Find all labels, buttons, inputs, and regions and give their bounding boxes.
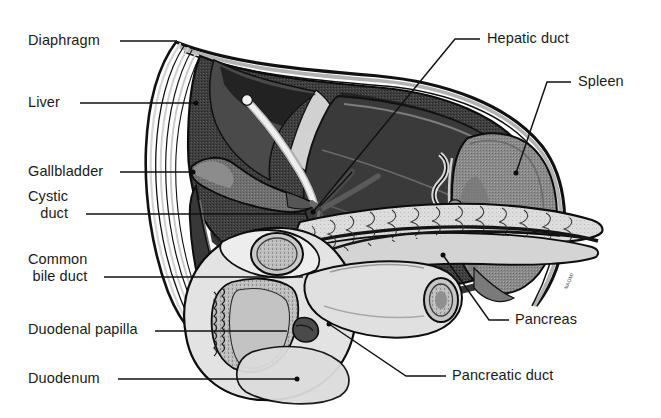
label-pancreatic-duct: Pancreatic duct xyxy=(452,367,553,384)
anatomy-figure: Diaphragm Liver Gallbladder Cystic duct … xyxy=(0,0,661,418)
label-common-bile-duct-line1: Common xyxy=(28,251,87,268)
dot-pancreatic-duct xyxy=(327,322,332,327)
label-pancreas: Pancreas xyxy=(515,311,577,328)
dot-pancreas xyxy=(441,253,446,258)
label-gallbladder: Gallbladder xyxy=(28,163,103,180)
dot-duodenum xyxy=(295,377,300,382)
dot-hepatic-duct xyxy=(311,210,316,215)
label-common-bile-duct-line2: bile duct xyxy=(28,268,87,285)
dot-spleen xyxy=(514,171,519,176)
duodenal-papilla-organ xyxy=(293,317,318,342)
label-spleen: Spleen xyxy=(578,73,624,90)
label-cystic-duct-line2: duct xyxy=(28,205,68,222)
label-duodenum: Duodenum xyxy=(28,370,100,387)
label-cystic-duct: Cystic duct xyxy=(28,188,68,222)
dot-gallbladder xyxy=(191,170,196,175)
dot-liver xyxy=(194,101,199,106)
label-common-bile-duct: Common bile duct xyxy=(28,251,87,285)
anatomy-illustration xyxy=(0,0,661,418)
label-duodenal-papilla: Duodenal papilla xyxy=(28,321,138,338)
label-cystic-duct-line1: Cystic xyxy=(28,188,68,205)
label-diaphragm: Diaphragm xyxy=(28,32,100,49)
label-hepatic-duct: Hepatic duct xyxy=(487,30,569,47)
label-liver: Liver xyxy=(28,94,60,111)
